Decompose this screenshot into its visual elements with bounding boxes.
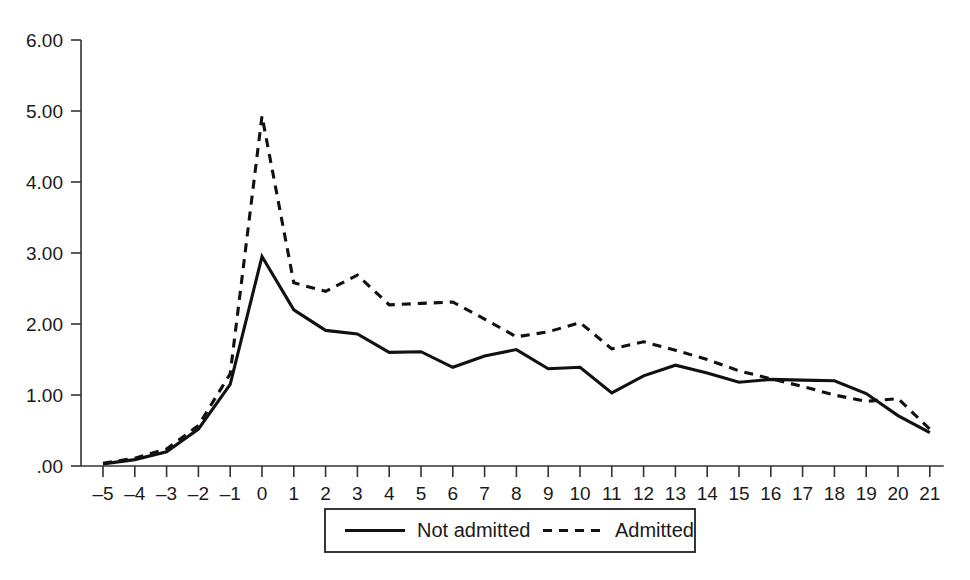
y-axis-tick-labels: .001.002.003.004.005.006.00 bbox=[26, 30, 63, 477]
x-tick-label: 6 bbox=[448, 483, 459, 504]
series-line-dashed bbox=[103, 116, 930, 463]
y-tick-label: 3.00 bbox=[26, 243, 63, 264]
chart-legend: Not admittedAdmitted bbox=[325, 509, 695, 552]
x-tick-label: 13 bbox=[665, 483, 686, 504]
x-tick-label: 10 bbox=[569, 483, 590, 504]
x-tick-label: 3 bbox=[352, 483, 363, 504]
y-tick-label: 1.00 bbox=[26, 385, 63, 406]
x-tick-label: –4 bbox=[124, 483, 146, 504]
legend-label-dashed: Admitted bbox=[615, 519, 694, 541]
chart-axes bbox=[71, 40, 944, 477]
x-tick-label: 14 bbox=[697, 483, 719, 504]
legend-label-solid: Not admitted bbox=[417, 519, 530, 541]
y-tick-label: .00 bbox=[37, 456, 63, 477]
x-tick-label: 15 bbox=[728, 483, 749, 504]
x-tick-label: 4 bbox=[384, 483, 395, 504]
x-tick-label: –2 bbox=[188, 483, 209, 504]
chart-figure: .001.002.003.004.005.006.00 –5–4–3–2–101… bbox=[0, 0, 970, 580]
x-tick-label: 20 bbox=[887, 483, 908, 504]
x-tick-label: 5 bbox=[416, 483, 427, 504]
x-tick-label: 17 bbox=[792, 483, 813, 504]
y-tick-label: 4.00 bbox=[26, 172, 63, 193]
x-tick-label: 0 bbox=[257, 483, 268, 504]
series-line-solid bbox=[103, 257, 930, 464]
x-tick-label: 19 bbox=[856, 483, 877, 504]
x-tick-label: 16 bbox=[760, 483, 781, 504]
x-tick-label: 21 bbox=[919, 483, 940, 504]
y-tick-label: 2.00 bbox=[26, 314, 63, 335]
x-tick-label: 12 bbox=[633, 483, 654, 504]
chart-series bbox=[103, 116, 930, 464]
x-tick-label: –1 bbox=[220, 483, 241, 504]
x-tick-label: 9 bbox=[543, 483, 554, 504]
x-tick-label: 8 bbox=[511, 483, 522, 504]
x-tick-label: 11 bbox=[602, 483, 622, 504]
x-tick-label: –3 bbox=[156, 483, 177, 504]
x-tick-label: 7 bbox=[479, 483, 490, 504]
y-tick-label: 5.00 bbox=[26, 101, 63, 122]
line-chart-canvas: .001.002.003.004.005.006.00 –5–4–3–2–101… bbox=[0, 0, 970, 580]
x-tick-label: 1 bbox=[289, 483, 300, 504]
x-axis-tick-labels: –5–4–3–2–1012345678910111213141516171819… bbox=[92, 483, 940, 504]
x-tick-label: 2 bbox=[320, 483, 331, 504]
x-tick-label: –5 bbox=[92, 483, 113, 504]
x-tick-label: 18 bbox=[824, 483, 845, 504]
y-tick-label: 6.00 bbox=[26, 30, 63, 51]
